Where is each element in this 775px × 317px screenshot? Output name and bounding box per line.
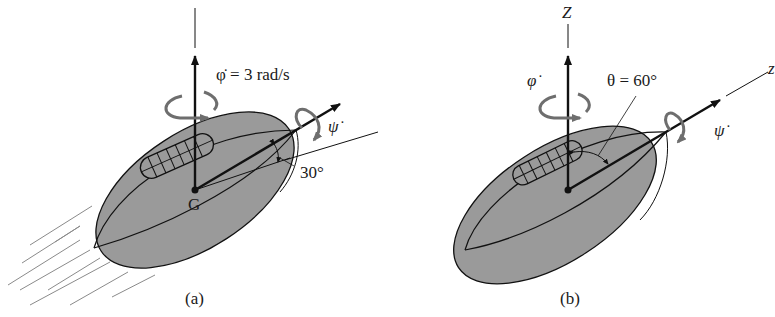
z-axis-line	[726, 72, 768, 96]
psi-dot-label: ψ̇	[328, 117, 344, 136]
football-b	[428, 95, 683, 316]
center-g-label: G	[188, 195, 200, 214]
z-axis-label: z	[767, 59, 775, 78]
center-of-mass-dot	[192, 187, 199, 194]
caption-b: (b)	[560, 289, 580, 308]
caption-a: (a)	[185, 289, 204, 308]
reference-line	[285, 132, 378, 160]
theta-label: θ = 60°	[607, 71, 657, 90]
Z-axis-label: Z	[562, 3, 572, 22]
origin-dot	[565, 187, 572, 194]
football-spin-diagram: φ̇ = 3 rad/s ψ̇ 30° G (a)	[0, 0, 775, 317]
psi-spin-arrow-icon	[296, 109, 319, 140]
phi-dot-label-b: φ̇	[527, 71, 541, 90]
phi-spin-arrow-icon	[166, 96, 208, 118]
panel-b: Z z φ̇ θ = 60° ψ̇ (b)	[428, 3, 775, 315]
psi-dot-label-b: ψ̇	[714, 121, 730, 140]
phi-dot-label: φ̇ = 3 rad/s	[216, 65, 290, 84]
panel-a: φ̇ = 3 rad/s ψ̇ 30° G (a)	[8, 8, 378, 308]
phi-spin-arrow-icon	[540, 96, 580, 118]
angle-30-label: 30°	[300, 163, 324, 182]
